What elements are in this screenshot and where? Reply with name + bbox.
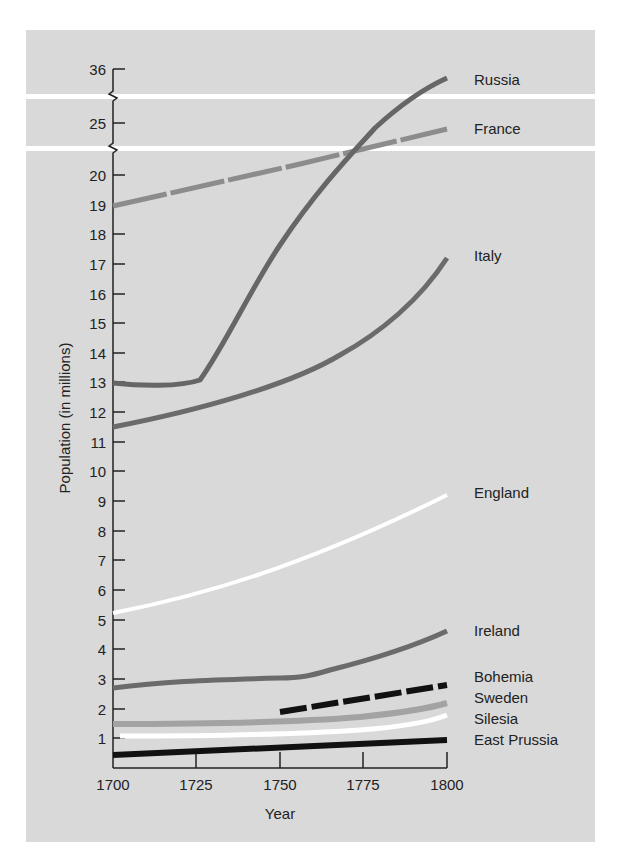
x-axis-title: Year xyxy=(265,805,295,822)
svg-text:10: 10 xyxy=(89,463,106,480)
label-silesia: Silesia xyxy=(474,710,519,727)
svg-text:11: 11 xyxy=(90,434,106,451)
svg-text:16: 16 xyxy=(89,286,106,303)
label-russia: Russia xyxy=(474,71,521,88)
series-labels: Russia France Italy England Ireland Bohe… xyxy=(474,71,559,748)
svg-text:4: 4 xyxy=(98,641,106,658)
svg-text:1750: 1750 xyxy=(263,776,296,793)
svg-text:7: 7 xyxy=(98,552,106,569)
svg-text:1800: 1800 xyxy=(430,776,463,793)
svg-text:8: 8 xyxy=(98,523,106,540)
svg-text:1775: 1775 xyxy=(346,776,379,793)
svg-text:18: 18 xyxy=(89,226,106,243)
svg-text:9: 9 xyxy=(98,493,106,510)
svg-text:1725: 1725 xyxy=(179,776,212,793)
svg-text:20: 20 xyxy=(89,167,106,184)
label-france: France xyxy=(474,120,521,137)
svg-text:3: 3 xyxy=(98,671,106,688)
svg-text:36: 36 xyxy=(89,61,106,78)
x-tick-labels: 1700 1725 1750 1775 1800 xyxy=(96,776,463,793)
svg-text:19: 19 xyxy=(89,197,106,214)
y-axis-title: Population (in millions) xyxy=(56,343,73,494)
y-tick-labels: 36 25 20 19 18 17 16 15 14 13 12 11 10 9… xyxy=(89,61,106,747)
svg-text:2: 2 xyxy=(98,701,106,718)
svg-text:17: 17 xyxy=(89,256,106,273)
svg-text:13: 13 xyxy=(89,374,106,391)
label-sweden: Sweden xyxy=(474,689,528,706)
line-england xyxy=(113,495,447,613)
line-ireland xyxy=(113,631,447,688)
label-east-prussia: East Prussia xyxy=(474,731,559,748)
svg-text:25: 25 xyxy=(89,115,106,132)
y-axis xyxy=(109,69,125,768)
svg-text:1: 1 xyxy=(98,730,106,747)
label-england: England xyxy=(474,484,529,501)
svg-text:1700: 1700 xyxy=(96,776,129,793)
svg-text:5: 5 xyxy=(98,612,106,629)
svg-text:6: 6 xyxy=(98,582,106,599)
label-ireland: Ireland xyxy=(474,622,520,639)
svg-text:14: 14 xyxy=(89,345,106,362)
population-chart: 36 25 20 19 18 17 16 15 14 13 12 11 10 9… xyxy=(0,0,621,862)
line-france xyxy=(113,129,447,206)
label-italy: Italy xyxy=(474,247,502,264)
label-bohemia: Bohemia xyxy=(474,668,534,685)
line-russia xyxy=(113,78,447,385)
svg-text:12: 12 xyxy=(89,404,106,421)
line-sweden xyxy=(113,703,447,724)
line-italy xyxy=(113,258,447,427)
svg-text:15: 15 xyxy=(89,315,106,332)
